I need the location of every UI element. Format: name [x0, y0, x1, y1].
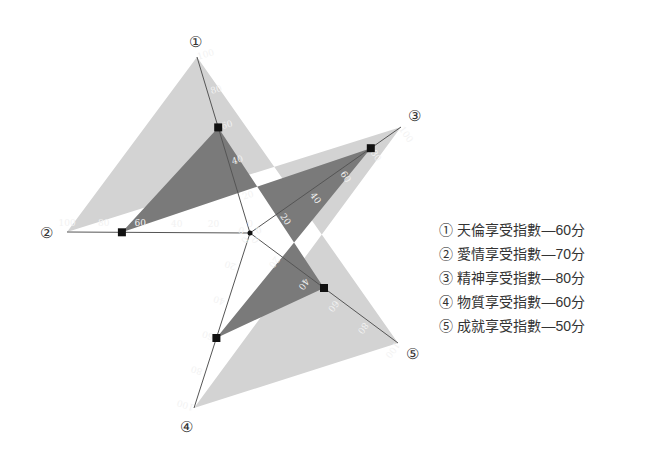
- legend-label: 天倫享受指數: [457, 222, 541, 238]
- data-marker: [214, 123, 222, 131]
- legend-marker: ①: [439, 222, 453, 238]
- tick-label: 80: [189, 364, 203, 377]
- tick-label: 100: [58, 218, 75, 228]
- legend-item-3: ③ 精神享受指數—80分: [439, 266, 585, 290]
- legend: ① 天倫享受指數—60分 ② 愛情享受指數—70分 ③ 精神享受指數—80分 ④…: [439, 218, 585, 338]
- legend-marker: ②: [439, 246, 453, 262]
- data-marker: [367, 144, 375, 152]
- tick-label: 20: [241, 189, 255, 202]
- tick-label: 100: [175, 398, 195, 413]
- axis-marker-label: ②: [40, 224, 53, 242]
- axis-line: [67, 232, 250, 233]
- tick-label: 100: [397, 124, 415, 144]
- legend-item-1: ① 天倫享受指數—60分: [439, 218, 585, 242]
- tick-label: 20: [208, 219, 220, 229]
- axis-marker-label: ③: [408, 107, 421, 125]
- legend-label: 精神享受指數: [457, 270, 541, 286]
- tick-label: 60: [135, 218, 147, 228]
- legend-item-4: ④ 物質享受指數—60分: [439, 290, 585, 314]
- tick-label: 80: [98, 218, 110, 228]
- legend-value: —80分: [541, 270, 585, 286]
- tick-label: 40: [212, 294, 226, 307]
- center-dot: [248, 231, 253, 236]
- legend-marker: ⑤: [439, 318, 453, 334]
- legend-marker: ④: [439, 294, 453, 310]
- legend-item-2: ② 愛情享受指數—70分: [439, 242, 585, 266]
- legend-label: 成就享受指數: [457, 318, 541, 334]
- tick-label: 0: [247, 219, 253, 229]
- axis-marker-label: ④: [180, 418, 193, 436]
- legend-value: —70分: [541, 246, 585, 262]
- legend-marker: ③: [439, 270, 453, 286]
- axis-marker-label: ⑤: [406, 345, 419, 363]
- legend-label: 愛情享受指數: [457, 246, 541, 262]
- data-marker: [320, 284, 328, 292]
- legend-value: —50分: [541, 318, 585, 334]
- legend-label: 物質享受指數: [457, 294, 541, 310]
- legend-value: —60分: [541, 294, 585, 310]
- tick-label: 40: [171, 219, 183, 229]
- tick-label: 20: [223, 259, 237, 272]
- legend-item-5: ⑤ 成就享受指數—50分: [439, 314, 585, 338]
- legend-value: —60分: [541, 222, 585, 238]
- tick-label: 0: [254, 225, 263, 236]
- data-marker: [118, 228, 126, 236]
- axis-marker-label: ①: [189, 33, 202, 51]
- data-marker: [212, 334, 220, 342]
- tick-label: 0: [237, 225, 246, 236]
